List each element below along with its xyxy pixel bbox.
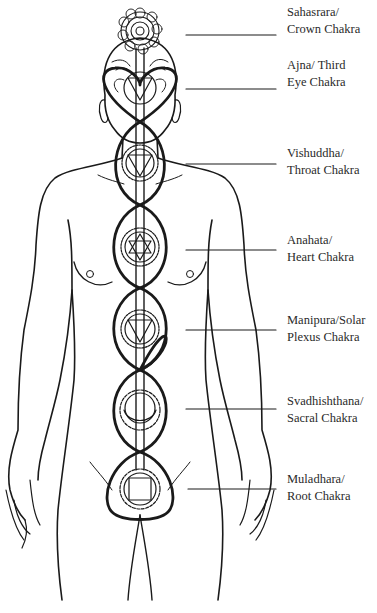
label-ajna: Ajna/ Third Eye Chakra <box>287 57 346 91</box>
label-svadhishthana-line2: Sacral Chakra <box>287 410 363 427</box>
chakra-sacral <box>120 390 160 430</box>
label-manipura: Manipura/Solar Plexus Chakra <box>287 312 365 346</box>
label-svadhishthana: Svadhishthana/ Sacral Chakra <box>287 393 363 427</box>
label-svadhishthana-line1: Svadhishthana/ <box>287 393 363 410</box>
chakra-root <box>120 469 160 509</box>
label-sahasrara-line1: Sahasrara/ <box>287 4 360 21</box>
label-ajna-line2: Eye Chakra <box>287 74 346 91</box>
nadi-channels <box>104 68 177 520</box>
label-manipura-line2: Plexus Chakra <box>287 329 365 346</box>
chakra-throat <box>122 145 158 181</box>
label-vishuddha-line2: Throat Chakra <box>287 162 360 179</box>
label-sahasrara-line2: Crown Chakra <box>287 21 360 38</box>
chakra-crown <box>118 8 162 54</box>
label-manipura-line1: Manipura/Solar <box>287 312 365 329</box>
label-anahata: Anahata/ Heart Chakra <box>287 232 354 266</box>
label-ajna-line1: Ajna/ Third <box>287 57 346 74</box>
label-sahasrara: Sahasrara/ Crown Chakra <box>287 4 360 38</box>
label-muladhara-line1: Muladhara/ <box>287 471 351 488</box>
label-muladhara-line2: Root Chakra <box>287 488 351 505</box>
label-anahata-line1: Anahata/ <box>287 232 354 249</box>
label-anahata-line2: Heart Chakra <box>287 249 354 266</box>
chakra-solar-plexus <box>121 310 159 348</box>
label-muladhara: Muladhara/ Root Chakra <box>287 471 351 505</box>
label-vishuddha: Vishuddha/ Throat Chakra <box>287 145 360 179</box>
chakra-body-figure <box>0 0 377 613</box>
chakra-heart <box>121 228 159 266</box>
chakra-third-eye <box>114 72 166 104</box>
label-vishuddha-line1: Vishuddha/ <box>287 145 360 162</box>
